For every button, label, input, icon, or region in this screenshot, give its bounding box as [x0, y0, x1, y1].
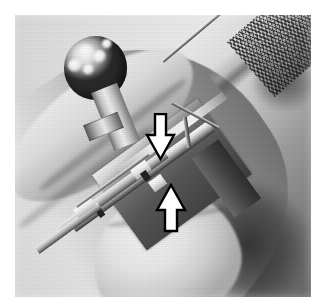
- arrow-down-shape: [147, 114, 174, 159]
- annotation-arrow-down: [144, 113, 177, 161]
- ball-highlight: [79, 45, 94, 60]
- arrow-up-shape: [157, 185, 185, 231]
- ball-highlight: [83, 64, 94, 75]
- annotation-arrow-up: [154, 183, 188, 233]
- page-root: [0, 0, 327, 308]
- ball-highlight: [68, 59, 82, 73]
- ball-highlight: [102, 39, 111, 49]
